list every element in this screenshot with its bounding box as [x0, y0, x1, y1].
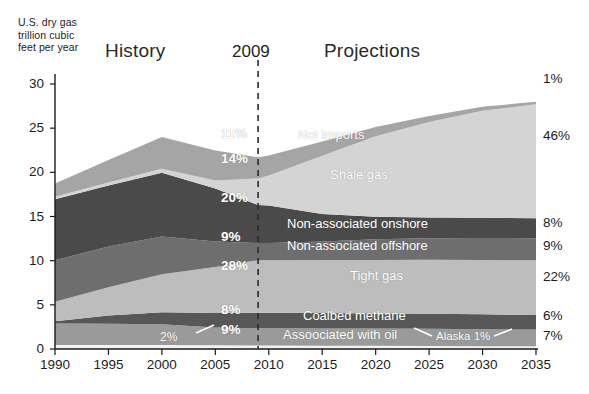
x-tick-1995: 1995: [85, 357, 131, 372]
right-share-4: 22%: [543, 269, 570, 284]
band-label-shale-gas: Shale gas: [330, 167, 388, 182]
era-label-projections: Projections: [324, 40, 420, 62]
y-axis-ticks: [50, 84, 55, 349]
y-tick-15: 15: [14, 209, 44, 224]
y-tick-10: 10: [14, 253, 44, 268]
inner-share-0: 11%: [221, 126, 247, 141]
x-tick-2020: 2020: [353, 357, 399, 372]
inner-share-1: 14%: [221, 151, 248, 166]
right-share-3: 9%: [543, 238, 563, 253]
annotation-alaska-projection: Alaska 1%: [436, 330, 490, 342]
x-tick-2015: 2015: [299, 357, 345, 372]
x-tick-2025: 2025: [406, 357, 452, 372]
y-tick-20: 20: [14, 164, 44, 179]
y-tick-5: 5: [14, 297, 44, 312]
x-tick-2030: 2030: [460, 357, 506, 372]
x-tick-2005: 2005: [192, 357, 238, 372]
inner-share-5: 8%: [221, 302, 241, 317]
right-share-6: 7%: [543, 328, 563, 343]
era-label-history: History: [105, 40, 166, 62]
inner-share-4: 28%: [221, 258, 248, 273]
band-label-coalbed-methane: Coalbed methane: [303, 308, 406, 323]
right-share-5: 6%: [543, 308, 563, 323]
stacked-area-chart: U.S. dry gas trillion cubic feet per yea…: [0, 0, 589, 394]
x-tick-2010: 2010: [246, 357, 292, 372]
chart-axis-title: U.S. dry gas trillion cubic feet per yea…: [18, 16, 78, 54]
band-label-net-imports: Net imports: [298, 127, 364, 142]
y-tick-30: 30: [14, 76, 44, 91]
x-tick-2035: 2035: [513, 357, 559, 372]
right-share-1: 46%: [543, 128, 570, 143]
x-axis-ticks: [55, 349, 536, 355]
x-tick-2000: 2000: [139, 357, 185, 372]
inner-share-6: 9%: [221, 322, 241, 337]
band-label-non-associated-offshore: Non-associated offshore: [287, 238, 428, 253]
right-share-0: 1%: [543, 71, 563, 86]
divider-year-label: 2009: [232, 42, 270, 62]
band-label-non-associated-onshore: Non-associated onshore: [287, 216, 428, 231]
right-share-2: 8%: [543, 215, 563, 230]
inner-share-3: 9%: [221, 229, 241, 244]
band-label-tight-gas: Tight gas: [350, 268, 403, 283]
x-tick-1990: 1990: [32, 357, 78, 372]
band-label-assoociated-with-oil: Assoociated with oil: [283, 327, 397, 342]
annotation-alaska-history: 2%: [160, 330, 177, 344]
inner-share-2: 20%: [221, 190, 248, 205]
y-tick-0: 0: [14, 341, 44, 356]
y-tick-25: 25: [14, 120, 44, 135]
